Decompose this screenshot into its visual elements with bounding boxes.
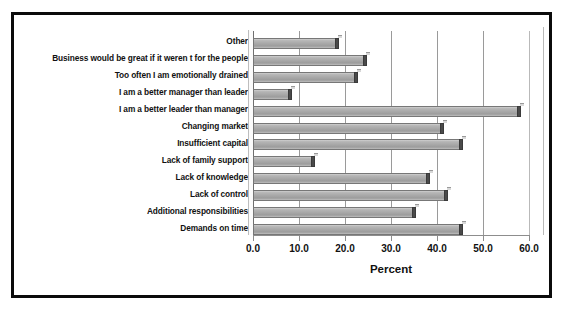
x-axis-tick-label: 20.0 bbox=[335, 243, 354, 254]
bar[interactable] bbox=[253, 38, 339, 49]
bar-row bbox=[253, 55, 529, 66]
plot-depth-line bbox=[529, 31, 530, 235]
x-axis-tick-label: 30.0 bbox=[381, 243, 400, 254]
x-axis-tick bbox=[529, 235, 530, 241]
x-axis-tick bbox=[253, 235, 254, 241]
bar[interactable] bbox=[253, 72, 358, 83]
x-axis-tick bbox=[483, 235, 484, 241]
bar-row bbox=[253, 139, 529, 150]
category-label: Changing market bbox=[18, 122, 248, 131]
bar-row bbox=[253, 123, 529, 134]
bar[interactable] bbox=[253, 106, 521, 117]
bar[interactable] bbox=[253, 173, 430, 184]
bar-row bbox=[253, 224, 529, 235]
category-label: Business would be great if it weren t fo… bbox=[18, 54, 248, 63]
category-label: I am a better manager than leader bbox=[18, 88, 248, 97]
bar[interactable] bbox=[253, 139, 463, 150]
x-axis-tick-label: 10.0 bbox=[289, 243, 308, 254]
bar-row bbox=[253, 190, 529, 201]
x-axis-tick bbox=[391, 235, 392, 241]
x-axis-tick-label: 50.0 bbox=[473, 243, 492, 254]
bar[interactable] bbox=[253, 190, 448, 201]
bar[interactable] bbox=[253, 224, 463, 235]
category-label: Other bbox=[18, 37, 248, 46]
category-label: Demands on time bbox=[18, 224, 248, 233]
bar-row bbox=[253, 72, 529, 83]
category-label: Lack of control bbox=[18, 190, 248, 199]
bar-row bbox=[253, 156, 529, 167]
bar-series bbox=[253, 35, 529, 235]
bar-row bbox=[253, 207, 529, 218]
category-label: Insufficient capital bbox=[18, 139, 248, 148]
bar-row bbox=[253, 89, 529, 100]
category-label: Additional responsibilities bbox=[18, 207, 248, 216]
x-axis-tick-label: 40.0 bbox=[427, 243, 446, 254]
category-label: I am a better leader than manager bbox=[18, 105, 248, 114]
x-axis-tick-label: 60.0 bbox=[519, 243, 538, 254]
bar[interactable] bbox=[253, 123, 444, 134]
bar[interactable] bbox=[253, 207, 416, 218]
category-axis-labels: OtherBusiness would be great if it weren… bbox=[18, 37, 248, 233]
bar-row bbox=[253, 38, 529, 49]
bar-row bbox=[253, 106, 529, 117]
x-axis-tick bbox=[437, 235, 438, 241]
x-axis-title: Percent bbox=[253, 263, 529, 275]
category-label: Too often I am emotionally drained bbox=[18, 71, 248, 80]
bar[interactable] bbox=[253, 55, 367, 66]
x-axis-tick bbox=[345, 235, 346, 241]
chart-border-frame: OtherBusiness would be great if it weren… bbox=[11, 12, 552, 298]
x-axis-tick bbox=[299, 235, 300, 241]
category-label: Lack of knowledge bbox=[18, 173, 248, 182]
bar[interactable] bbox=[253, 156, 315, 167]
bar-row bbox=[253, 173, 529, 184]
chart-canvas: OtherBusiness would be great if it weren… bbox=[14, 15, 549, 295]
x-axis-tick-labels: 0.010.020.030.040.050.060.0 bbox=[253, 243, 529, 257]
bar[interactable] bbox=[253, 89, 292, 100]
plot-depth-line bbox=[543, 27, 544, 235]
x-axis-tick-label: 0.0 bbox=[246, 243, 260, 254]
plot-area bbox=[253, 35, 529, 235]
category-label: Lack of family support bbox=[18, 156, 248, 165]
